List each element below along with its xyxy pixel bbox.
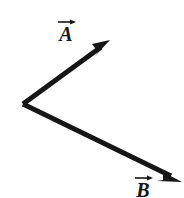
vector-B-group [23, 104, 182, 182]
vector-diagram-figure: A B [0, 0, 184, 198]
vector-canvas [0, 0, 184, 198]
vector-B-shaft [23, 104, 171, 176]
vector-A-shaft [23, 47, 101, 104]
vector-label-B: B [132, 174, 154, 198]
vector-A-group [23, 40, 110, 104]
vector-label-A: A [55, 18, 77, 44]
vector-label-B-text: B [132, 180, 154, 198]
vector-label-A-text: A [55, 24, 77, 44]
